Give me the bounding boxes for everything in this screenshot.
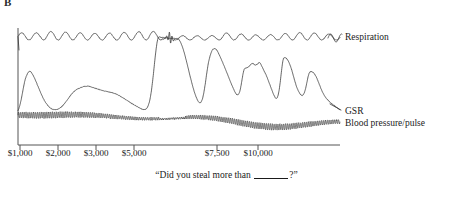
polygraph-figure: B Respiration GSR Blood pressure/pulse $…: [0, 0, 453, 199]
blood-pressure-trace: [18, 112, 340, 131]
legend-label-gsr: GSR: [345, 106, 363, 116]
x-tick-label-2: $3,000: [84, 148, 109, 158]
x-tick-label-0: $1,000: [8, 148, 33, 158]
caption-blank: [254, 178, 288, 179]
legend-label-blood-pressure: Blood pressure/pulse: [345, 118, 425, 128]
legend-label-respiration: Respiration: [345, 32, 389, 42]
x-tick-label-3: $5,000: [122, 148, 147, 158]
caption-suffix: ?”: [289, 170, 297, 180]
chart-caption: “Did you steal more than ?”: [0, 170, 453, 180]
gsr-legend-icon: [330, 104, 341, 110]
panel-label: B: [4, 0, 11, 8]
x-tick-label-5: $10,000: [243, 148, 272, 158]
x-tick-label-4: $7,500: [205, 148, 230, 158]
x-tick-label-1: $2,000: [46, 148, 71, 158]
respiration-trace: [18, 31, 340, 50]
caption-prefix: “Did you steal more than: [155, 170, 253, 180]
gsr-trace: [18, 37, 340, 111]
